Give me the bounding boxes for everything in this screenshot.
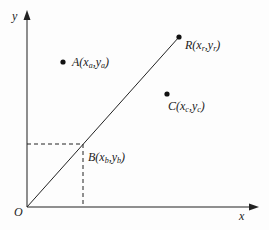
point-r-label: R(xr,yr) — [184, 38, 220, 53]
point-a-dot-icon — [60, 59, 65, 64]
diagram-canvas: y x O A(xa,ya) R(xr,yr) C(xc,yc) B(xb,yb… — [0, 0, 269, 230]
y-axis-arrow-icon — [24, 10, 31, 20]
x-axis-arrow-icon — [249, 204, 259, 211]
point-c-dot-icon — [164, 91, 169, 96]
point-b-label: B(xb,yb) — [88, 150, 125, 165]
x-axis-label: x — [238, 209, 245, 223]
point-c-label: C(xc,yc) — [168, 99, 205, 114]
origin-label: O — [14, 205, 23, 219]
y-axis-label: y — [11, 9, 18, 23]
coordinate-diagram: y x O A(xa,ya) R(xr,yr) C(xc,yc) B(xb,yb… — [0, 0, 269, 230]
point-r-dot-icon — [176, 34, 181, 39]
point-a-label: A(xa,ya) — [71, 55, 109, 70]
